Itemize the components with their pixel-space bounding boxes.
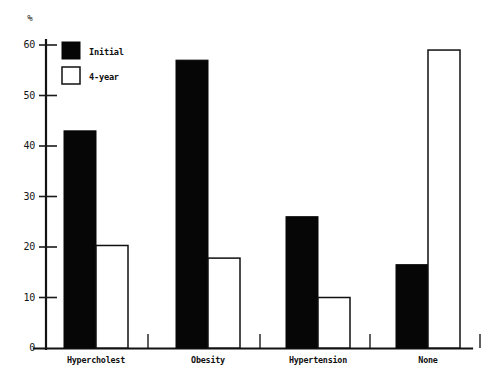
bar-hypercholest-initial: [64, 131, 96, 348]
legend-swatch-4-year: [62, 67, 80, 84]
category-label-none: None: [418, 355, 438, 365]
bar-none-initial: [396, 265, 428, 348]
y-axis-unit-label: %: [27, 13, 33, 23]
legend-label-4-year: 4-year: [89, 72, 119, 82]
chart-canvas: % 0102030405060 HypercholestObesityHyper…: [0, 0, 489, 380]
bar-hypercholest-4-year: [96, 245, 128, 348]
bar-obesity-initial: [176, 60, 208, 348]
y-tick-label: 0: [29, 342, 35, 353]
bar-hypertension-initial: [286, 217, 318, 348]
legend-swatch-initial: [62, 42, 80, 59]
category-label-hypercholest: Hypercholest: [67, 355, 125, 365]
y-tick-label: 20: [24, 241, 36, 252]
y-tick-label: 60: [24, 39, 36, 50]
y-tick-label: 30: [24, 191, 36, 202]
bar-none-4-year: [428, 50, 460, 348]
y-tick-label: 10: [24, 292, 36, 303]
legend-label-initial: Initial: [89, 47, 124, 57]
y-tick-label: 50: [24, 90, 36, 101]
y-tick-label: 40: [24, 140, 36, 151]
bar-chart-figure: % 0102030405060 HypercholestObesityHyper…: [0, 0, 489, 380]
bar-obesity-4-year: [208, 258, 240, 348]
category-label-hypertension: Hypertension: [289, 355, 347, 365]
category-label-obesity: Obesity: [191, 355, 225, 365]
bar-hypertension-4-year: [318, 298, 350, 349]
